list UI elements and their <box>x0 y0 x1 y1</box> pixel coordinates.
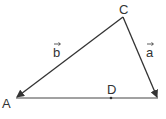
label-c-point: C <box>119 2 128 17</box>
label-vector-a: a <box>146 45 154 60</box>
label-a-point: A <box>2 96 11 111</box>
triangle-diagram: A C D b a <box>0 0 166 119</box>
label-d-point: D <box>107 82 116 97</box>
point-d <box>110 97 113 100</box>
label-vector-b: b <box>53 45 60 60</box>
